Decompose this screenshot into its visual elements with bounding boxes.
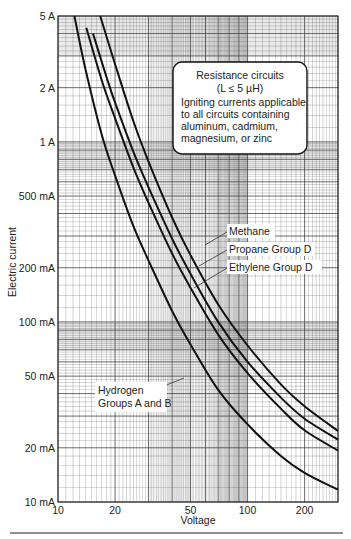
- info-box-body-3: aluminum, cadmium,: [181, 120, 278, 132]
- y-tick-label: 20 mA: [25, 442, 55, 454]
- y-tick-label: 10 mA: [25, 496, 55, 508]
- info-box-body-2: to all circuits containing: [181, 108, 290, 120]
- y-tick-label: 50 mA: [25, 370, 55, 382]
- y-tick-label: 2 A: [40, 82, 55, 94]
- x-tick-label: 10: [52, 504, 64, 516]
- x-tick-label: 200: [296, 504, 314, 516]
- y-tick-label: 200 mA: [19, 262, 55, 274]
- y-tick-label: 5 A: [40, 10, 55, 22]
- hydrogen-label-line2: Groups A and B: [98, 397, 172, 409]
- y-axis-ticks: 5 A2 A1 A500 mA200 mA100 mA50 mA20 mA10 …: [19, 10, 55, 508]
- info-box-body-1: Igniting currents applicable: [181, 96, 306, 108]
- ignition-current-chart: 5 A2 A1 A500 mA200 mA100 mA50 mA20 mA10 …: [0, 0, 351, 539]
- y-tick-label: 500 mA: [19, 190, 55, 202]
- x-tick-label: 20: [109, 504, 121, 516]
- y-tick-label: 1 A: [40, 136, 55, 148]
- hydrogen-label-line1: Hydrogen: [98, 384, 144, 396]
- y-axis-label: Electric current: [6, 227, 18, 297]
- y-tick-label: 100 mA: [19, 316, 55, 328]
- x-axis-label: Voltage: [180, 514, 215, 526]
- info-box-subtitle: (L ≤ 5 µH): [217, 82, 263, 94]
- x-tick-label: 100: [239, 504, 257, 516]
- info-box-body-4: magnesium, or zinc: [181, 132, 272, 144]
- info-box-title: Resistance circuits: [196, 69, 284, 81]
- propane-label: Propane Group D: [229, 243, 312, 255]
- ethylene-label: Ethylene Group D: [229, 261, 313, 273]
- methane-label: Methane: [229, 225, 270, 237]
